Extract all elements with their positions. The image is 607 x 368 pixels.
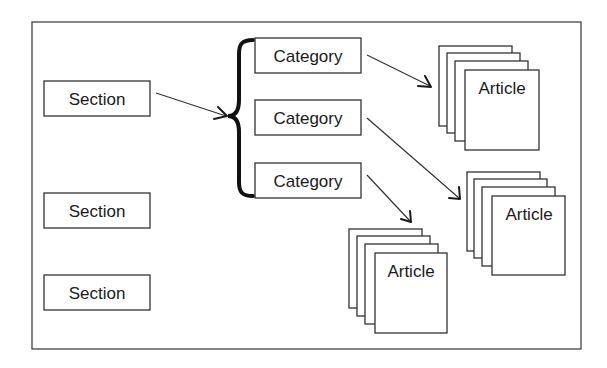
category-label: Category [274,109,343,128]
section-box-1: Section [44,81,150,116]
section-label: Section [69,202,126,221]
category-label: Category [274,172,343,191]
section-box-3: Section [44,275,150,310]
section-label: Section [69,284,126,303]
section-label: Section [69,90,126,109]
diagram-canvas: Section Section Section Category Categor… [0,0,607,368]
article-label: Article [387,262,434,281]
article-label: Article [505,205,552,224]
category-box-3: Category [255,163,361,198]
category-box-2: Category [255,100,361,135]
category-box-1: Category [255,38,361,73]
category-label: Category [274,47,343,66]
article-stack-2: Article [467,172,565,275]
section-box-2: Section [44,193,150,228]
article-label: Article [478,79,525,98]
